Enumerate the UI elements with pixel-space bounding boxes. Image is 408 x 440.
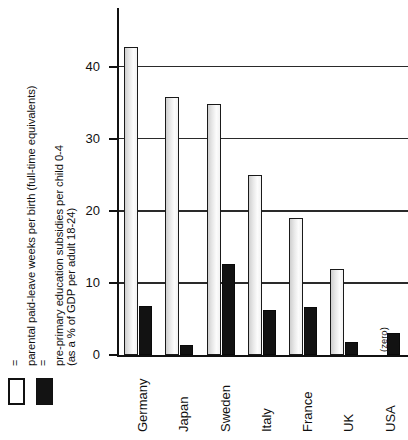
bar-chart: = parental paid-leave weeks per birth (f… bbox=[0, 0, 408, 440]
y-tick-0 bbox=[109, 354, 118, 356]
y-tick-label-0: 0 bbox=[70, 348, 100, 361]
bar-group bbox=[325, 0, 366, 355]
bar-group bbox=[202, 0, 243, 355]
bar-france-filled bbox=[304, 307, 317, 355]
y-tick-20 bbox=[109, 210, 118, 212]
bar-sweden-filled bbox=[222, 264, 235, 355]
x-label-uk: UK bbox=[342, 414, 355, 432]
bar-uk-filled bbox=[345, 342, 358, 355]
y-tick-label-40: 40 bbox=[70, 60, 100, 73]
bar-group bbox=[243, 0, 284, 355]
legend-equals-sign-parental: = bbox=[10, 360, 21, 366]
bar-germany-filled bbox=[139, 306, 152, 355]
y-tick-40 bbox=[109, 66, 118, 68]
y-tick-label-10: 10 bbox=[70, 276, 100, 289]
x-label-japan: Japan bbox=[177, 397, 190, 432]
bar-group bbox=[284, 0, 325, 355]
x-label-italy: Italy bbox=[260, 408, 273, 432]
bar-japan-open bbox=[165, 97, 179, 355]
x-label-usa: USA bbox=[384, 405, 397, 432]
bar-germany-open bbox=[124, 47, 138, 355]
y-tick-30 bbox=[109, 138, 118, 140]
bar-uk-open bbox=[330, 269, 344, 355]
x-label-sweden: Sweden bbox=[219, 385, 232, 432]
chart-legend: = parental paid-leave weeks per birth (f… bbox=[0, 0, 66, 440]
zero-annotation: (zero) bbox=[379, 327, 389, 352]
bar-italy-filled bbox=[263, 310, 276, 355]
legend-label-parental-leave: parental paid-leave weeks per birth (ful… bbox=[25, 86, 37, 366]
bar-group bbox=[367, 0, 408, 355]
legend-label-preprimary-subsidies-line1: pre-primary education subsidies per chil… bbox=[53, 145, 65, 366]
bar-france-open bbox=[289, 218, 303, 355]
legend-equals-sign-preprimary: = bbox=[38, 360, 49, 366]
y-tick-label-30: 30 bbox=[70, 132, 100, 145]
legend-swatch-open bbox=[8, 378, 25, 405]
bar-sweden-open bbox=[207, 104, 221, 355]
bar-italy-open bbox=[248, 175, 262, 355]
bar-group bbox=[119, 0, 160, 355]
x-label-germany: Germany bbox=[136, 379, 149, 432]
bar-series-container bbox=[119, 0, 408, 355]
x-axis-line bbox=[117, 355, 408, 357]
y-tick-10 bbox=[109, 282, 118, 284]
y-tick-label-20: 20 bbox=[70, 204, 100, 217]
bar-japan-filled bbox=[180, 345, 193, 355]
x-label-france: France bbox=[301, 392, 314, 432]
bar-group bbox=[160, 0, 201, 355]
plot-area: 010203040 GermanyJapanSwedenItalyFranceU… bbox=[100, 0, 408, 440]
legend-swatch-filled bbox=[36, 378, 53, 405]
